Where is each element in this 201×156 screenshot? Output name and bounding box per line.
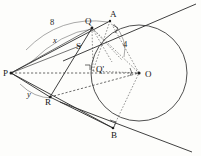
segment-R-B [50, 97, 113, 128]
vertex-dot-Q [91, 27, 94, 30]
right-angle-mark-Qprime [85, 65, 90, 70]
vertex-dot-A [109, 20, 111, 22]
segment-R-O [50, 73, 139, 97]
segment-Q-interior-2 [92, 28, 112, 62]
segment-P-S [11, 45, 82, 73]
vertex-dot-B [112, 127, 115, 130]
tangent-line-upper [63, 4, 196, 61]
label-point-R: R [45, 97, 51, 107]
segment-B-O [113, 73, 139, 128]
label-length-8: 8 [50, 17, 54, 27]
segment-Q-interior-1 [92, 28, 122, 60]
label-length-4: 4 [123, 39, 128, 49]
label-point-P: P [3, 68, 8, 78]
label-point-Qprime: Q' [96, 64, 104, 74]
label-point-A: A [110, 9, 117, 19]
tangent-line-lower [60, 102, 192, 152]
segment-P-B [11, 73, 113, 128]
label-length-y: y [26, 89, 31, 99]
geometry-canvas: P Q A S Q' O R B 8 x 4 y [0, 0, 201, 156]
vertex-dot-O [137, 71, 140, 74]
geometry-diagram: P Q A S Q' O R B 8 x 4 y [0, 0, 201, 156]
label-length-x: x [52, 35, 57, 45]
label-point-Q: Q [85, 16, 92, 26]
arc-8-bracket [26, 21, 108, 50]
vertex-dot-P [10, 72, 13, 75]
label-point-B: B [111, 130, 117, 140]
label-point-O: O [145, 69, 152, 79]
label-point-S: S [76, 41, 81, 51]
